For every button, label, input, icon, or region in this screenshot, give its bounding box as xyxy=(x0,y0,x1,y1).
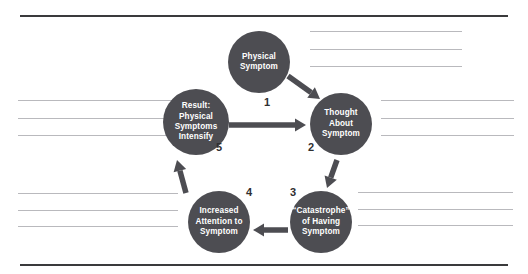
diagram-node-physical-symptom[interactable]: Physical Symptom xyxy=(228,31,290,93)
diagram-node-label: Physical Symptom xyxy=(240,52,278,73)
cycle-diagram: Physical SymptomThought About Symptom“Ca… xyxy=(0,0,528,274)
diagram-node-catastrophe-of-having-symptom[interactable]: “Catastrophe” of Having Symptom xyxy=(290,191,352,253)
diagram-step-number-1: 1 xyxy=(264,97,270,108)
arrow-3-to-4 xyxy=(253,224,288,237)
diagram-step-number-4: 4 xyxy=(246,187,252,198)
diagram-step-number-2: 2 xyxy=(308,142,314,153)
diagram-node-increased-attention-to-symptom[interactable]: Increased Attention to Symptom xyxy=(188,191,250,253)
arrow-1-to-2 xyxy=(288,76,320,99)
diagram-node-label: “Catastrophe” of Having Symptom xyxy=(292,206,349,237)
page-canvas: Physical SymptomThought About Symptom“Ca… xyxy=(0,0,528,274)
diagram-node-label: Result: Physical Symptoms Intensify xyxy=(175,101,218,143)
diagram-node-thought-about-symptom[interactable]: Thought About Symptom xyxy=(310,93,372,155)
diagram-node-label: Increased Attention to Symptom xyxy=(195,206,242,237)
diagram-step-number-5: 5 xyxy=(216,142,222,153)
diagram-step-number-3: 3 xyxy=(290,187,296,198)
diagram-node-label: Thought About Symptom xyxy=(322,108,360,139)
arrow-5-to-2 xyxy=(229,119,306,132)
arrow-4-to-5 xyxy=(174,160,187,193)
arrow-2-to-3 xyxy=(325,160,337,188)
